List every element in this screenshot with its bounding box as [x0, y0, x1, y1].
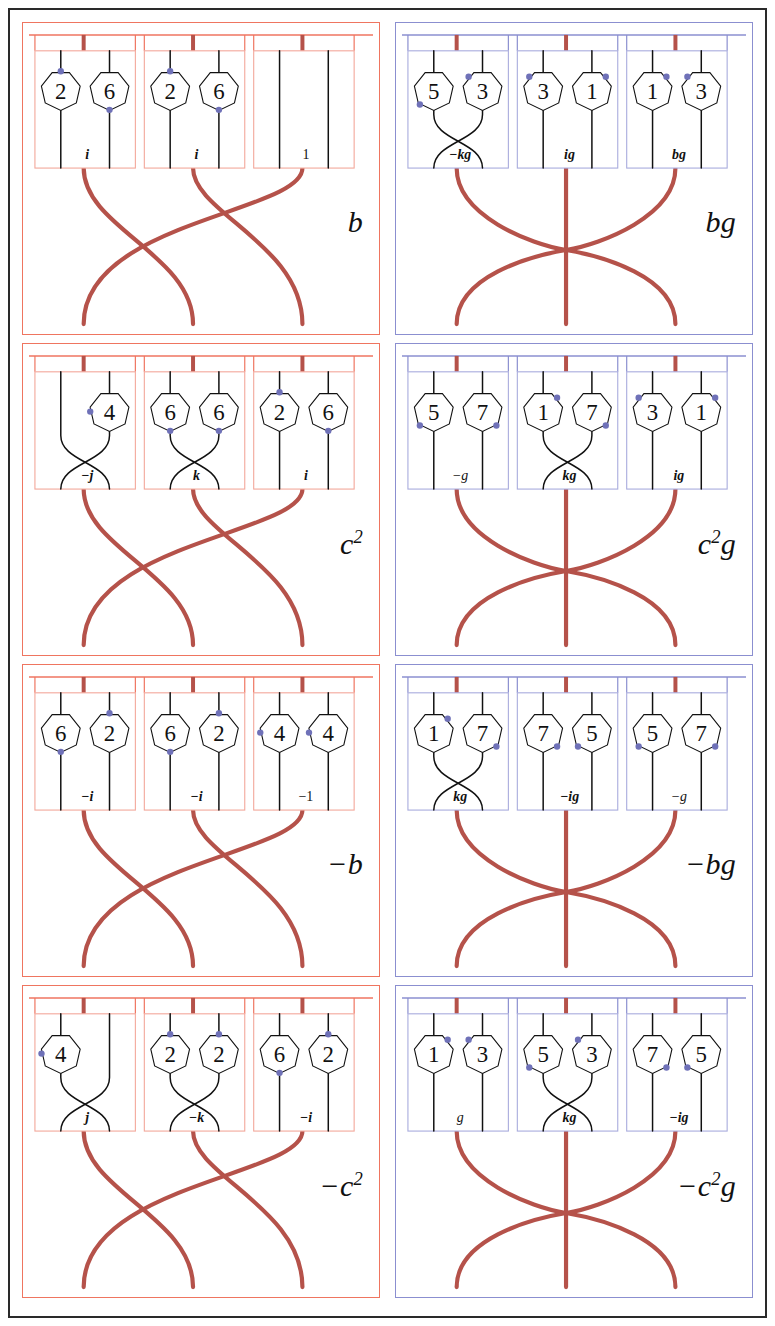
main-braid: [457, 1131, 676, 1287]
main-braid: [457, 489, 676, 645]
blue-dot-marker: [167, 68, 173, 74]
sub-box-label: kg: [563, 1110, 577, 1125]
node-value: 7: [477, 400, 488, 425]
blue-dot-marker: [526, 1064, 532, 1070]
sub-box: 66k: [144, 372, 244, 489]
node-value: 2: [164, 1042, 175, 1067]
top-connector-bar: [29, 998, 373, 1014]
sub-box: 13bg: [627, 51, 727, 168]
braid-strand-2: [193, 168, 302, 324]
sub-box: 62−i: [254, 1014, 354, 1131]
node-value: 2: [213, 721, 224, 746]
blue-dot-marker: [444, 716, 450, 722]
node-value: 5: [647, 721, 658, 746]
braid-strand-3: [84, 1131, 303, 1287]
node-value: 2: [104, 721, 115, 746]
node-value: 7: [477, 721, 488, 746]
node-value: 4: [323, 721, 335, 746]
sub-box-label: −j: [81, 468, 93, 483]
panel-canvas: 53−kg31ig13bg: [396, 23, 752, 334]
panel-panel-c2[interactable]: 4−j66k26ic2c²: [22, 343, 380, 656]
node-value: 5: [586, 721, 597, 746]
braid-strand-3: [84, 810, 303, 966]
main-braid: [457, 810, 676, 966]
node-value: 6: [55, 721, 66, 746]
sub-box-label: −ig: [560, 789, 579, 804]
top-connector-bar: [402, 677, 746, 693]
sub-box: 53kg: [517, 1014, 617, 1131]
node-value: 1: [428, 721, 439, 746]
panel-canvas: 13g53kg75−ig: [396, 986, 752, 1297]
node-value: 3: [537, 79, 548, 104]
blue-dot-marker: [465, 1037, 471, 1043]
blue-dot-marker: [684, 1064, 690, 1070]
top-connector-bar: [29, 35, 373, 51]
main-braid: [84, 1131, 303, 1287]
node-value: 6: [274, 1042, 285, 1067]
node-value: 5: [696, 1042, 707, 1067]
node-value: 7: [647, 1042, 658, 1067]
blue-dot-marker: [684, 74, 690, 80]
node-value: 6: [164, 721, 175, 746]
blue-dot-marker: [493, 422, 499, 428]
blue-dot-marker: [325, 428, 331, 434]
blue-dot-marker: [575, 743, 581, 749]
node-value: 6: [323, 400, 334, 425]
sub-box-label: ig: [673, 468, 684, 483]
top-connector-bar: [402, 998, 746, 1014]
sub-box: 31ig: [627, 372, 727, 489]
blue-dot-marker: [58, 749, 64, 755]
node-value: 2: [213, 1042, 224, 1067]
main-braid: [84, 810, 303, 966]
sub-box: 44−1: [254, 693, 354, 810]
sub-box-label: −ig: [669, 1110, 688, 1125]
panel-panel-minus-bg[interactable]: 17kg75−ig57−g−bg−bg: [395, 664, 753, 977]
blue-dot-marker: [216, 710, 222, 716]
panel-label-text: b: [23, 334, 24, 335]
blue-dot-marker: [106, 710, 112, 716]
sub-box: 17kg: [408, 693, 508, 810]
top-connector-bar: [402, 356, 746, 372]
blue-dot-marker: [465, 74, 471, 80]
sub-box: 22−k: [144, 1014, 244, 1131]
sub-box: 62−i: [35, 693, 135, 810]
node-value: 3: [477, 79, 488, 104]
blue-dot-marker: [663, 74, 669, 80]
node-value: 2: [274, 400, 285, 425]
blue-dot-marker: [167, 749, 173, 755]
sub-box-label: −g: [452, 468, 468, 483]
panel-panel-minus-b[interactable]: 62−i62−i44−1−b−b: [22, 664, 380, 977]
sub-box: 4−j: [35, 372, 135, 489]
node-value: 6: [104, 79, 115, 104]
blue-dot-marker: [216, 428, 222, 434]
sub-box-label: ig: [564, 147, 575, 162]
node-value: 2: [323, 1042, 334, 1067]
panel-panel-minus-c2g[interactable]: 13g53kg75−ig−c2g−c²g: [395, 985, 753, 1298]
panel-panel-b[interactable]: 26i26i1bb: [22, 22, 380, 335]
sub-box: 4j: [35, 1014, 135, 1131]
blue-dot-marker: [216, 107, 222, 113]
blue-dot-marker: [87, 408, 93, 414]
node-value: 3: [696, 79, 707, 104]
blue-dot-marker: [106, 107, 112, 113]
sub-box-label: −kg: [449, 147, 471, 162]
node-value: 6: [213, 400, 224, 425]
blue-dot-marker: [444, 1037, 450, 1043]
blue-dot-marker: [554, 743, 560, 749]
braid-strand-1: [84, 1131, 193, 1287]
sub-box-label: −i: [81, 789, 93, 804]
sub-box: 26i: [254, 372, 354, 489]
blue-dot-marker: [306, 729, 312, 735]
panel-panel-c2g[interactable]: 57−g17kg31igc2gc²g: [395, 343, 753, 656]
node-value: 5: [428, 400, 439, 425]
blue-dot-marker: [526, 74, 532, 80]
sub-box: 53−kg: [408, 51, 508, 168]
panel-panel-bg[interactable]: 53−kg31ig13bgbgbg: [395, 22, 753, 335]
panel-grid: 26i26i1bb53−kg31ig13bgbgbg4−j66k26ic2c²5…: [22, 22, 753, 1304]
panel-panel-minus-c2[interactable]: 4j22−k62−i−c2−c²: [22, 985, 380, 1298]
blue-dot-marker: [38, 1050, 44, 1056]
node-value: 3: [586, 1042, 597, 1067]
blue-dot-marker: [635, 395, 641, 401]
braid-strand-3: [84, 168, 303, 324]
blue-dot-marker: [276, 389, 282, 395]
